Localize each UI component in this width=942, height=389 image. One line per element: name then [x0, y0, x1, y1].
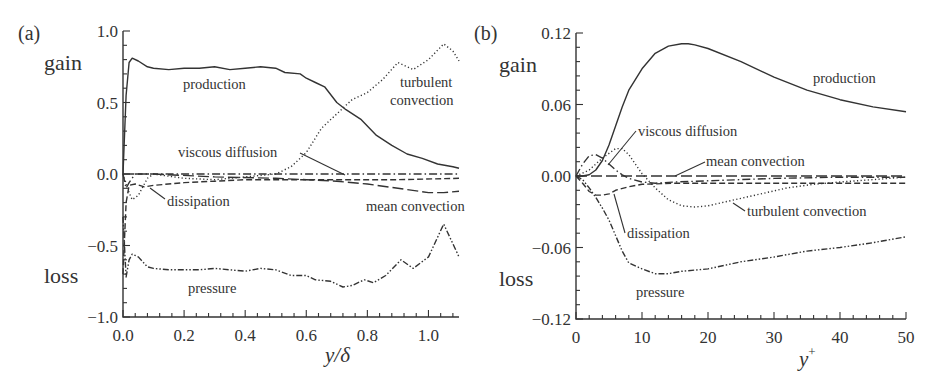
label-turbulent-convection: turbulent convection	[747, 203, 867, 219]
x-axis-title: y/δ	[323, 343, 351, 367]
y-tick-label: −0.5	[87, 237, 118, 256]
leader-dissipation	[150, 188, 165, 199]
loss-label: loss	[44, 263, 78, 288]
x-tick-label: 0.8	[357, 326, 378, 345]
label-production: production	[813, 70, 877, 86]
y-tick-label: −0.06	[532, 239, 571, 258]
y-tick-label: −0.12	[532, 310, 571, 329]
axes-a: 0.00.20.40.60.81.0−1.0−0.50.00.51.0	[87, 22, 459, 345]
panel-b-label: (b)	[474, 22, 497, 45]
x-tick-label: 0.2	[173, 326, 194, 345]
gain-label: gain	[499, 52, 537, 77]
leader-viscous-diffusion	[300, 153, 345, 175]
label-mean-convection: mean convection	[366, 198, 465, 214]
label-viscous-diffusion: viscous diffusion	[178, 144, 278, 160]
x-tick-label: 50	[898, 328, 915, 347]
curve-mean-convection	[123, 174, 459, 193]
y-tick-label: 0.12	[541, 24, 571, 43]
y-tick-label: −1.0	[87, 308, 118, 327]
label-mean-convection: mean convection	[706, 153, 805, 169]
x-tick-label: 0.0	[112, 326, 133, 345]
label-pressure: pressure	[188, 280, 236, 296]
figure: (a) gain loss y/δ 0.00.20.40.60.81.0−1.0…	[0, 0, 942, 389]
curve-dissipation	[576, 176, 906, 195]
x-tick-label: 40	[832, 328, 849, 347]
y-tick-label: 0.5	[97, 94, 118, 113]
curve-pressure	[123, 217, 459, 287]
y-tick-label: 0.0	[97, 165, 118, 184]
leader-turbulent-convection	[733, 203, 745, 211]
x-tick-label: 20	[700, 328, 717, 347]
panel-b: (b) gain loss y+ 01020304050−0.12−0.060.…	[474, 22, 915, 371]
leader-dissipation	[614, 194, 625, 233]
x-tick-label: 0.4	[235, 326, 257, 345]
loss-label: loss	[499, 266, 533, 291]
x-tick-label: 30	[766, 328, 783, 347]
x-tick-label: 1.0	[418, 326, 439, 345]
label-dissipation: dissipation	[627, 225, 691, 241]
curve-pressure	[576, 176, 906, 274]
label-turbulent: turbulent	[400, 74, 452, 90]
label-convection: convection	[390, 92, 454, 108]
gain-label: gain	[44, 50, 82, 75]
y-tick-label: 0.00	[541, 167, 571, 186]
label-viscous-diffusion: viscous diffusion	[638, 123, 738, 139]
curve-turbulent-convection	[123, 44, 459, 200]
y-tick-label: 1.0	[97, 22, 118, 41]
x-tick-label: 0.6	[296, 326, 317, 345]
label-pressure: pressure	[636, 284, 684, 300]
x-tick-label: 0	[572, 328, 581, 347]
label-dissipation: dissipation	[167, 193, 231, 209]
panel-a-label: (a)	[18, 22, 40, 45]
label-production: production	[183, 76, 247, 92]
x-tick-label: 10	[634, 328, 651, 347]
panel-a: (a) gain loss y/δ 0.00.20.40.60.81.0−1.0…	[18, 22, 465, 367]
leader-mean-convection	[675, 162, 705, 176]
y-tick-label: 0.06	[541, 96, 571, 115]
x-axis-title: y+	[797, 344, 816, 371]
curve-viscous-diffusion	[123, 174, 459, 188]
